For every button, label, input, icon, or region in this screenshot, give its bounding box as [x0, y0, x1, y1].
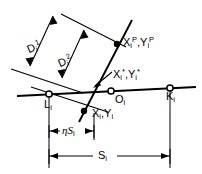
label-o-subscript: i: [124, 98, 126, 107]
point-marker-p: [114, 41, 120, 47]
s-arrowhead-right: [161, 153, 169, 159]
eta-s-arrowhead-right: [85, 128, 93, 134]
label-point-xy-coords: Xi,Yi: [92, 108, 113, 121]
point-marker-o: [108, 88, 114, 94]
label-point-o: Oi: [115, 94, 125, 107]
construction-line-lower: [11, 69, 83, 93]
label-s-dimension: Si: [98, 150, 107, 163]
label-eta-s-base: ηS: [62, 124, 73, 136]
label-o-base: O: [115, 93, 124, 105]
label-eta-s-dimension: ηSi: [62, 125, 75, 138]
label-yp-superscript: P: [149, 35, 154, 44]
label-point-p-coords: XiP,YiP: [123, 36, 154, 50]
label-point-star-coords: Xi*,Yi*: [113, 68, 140, 82]
label-point-k: Ki: [166, 91, 175, 104]
figure-canvas: Di1 Di2 XiP,YiP Xi*,Yi* Xi,Yi Li Oi Ki η…: [0, 0, 202, 174]
label-point-l: Li: [44, 99, 52, 112]
label-ystar-superscript: *: [137, 67, 140, 76]
label-l-subscript: i: [50, 103, 52, 112]
diagram-svg: [0, 0, 202, 174]
s-arrowhead-left: [50, 153, 58, 159]
eta-s-arrowhead-left: [50, 128, 58, 134]
label-eta-s-subscript: i: [73, 129, 75, 138]
label-s-subscript: i: [105, 154, 107, 163]
label-k-subscript: i: [173, 95, 175, 104]
label-y-subscript: i: [111, 112, 113, 121]
point-marker-xy: [81, 108, 87, 114]
